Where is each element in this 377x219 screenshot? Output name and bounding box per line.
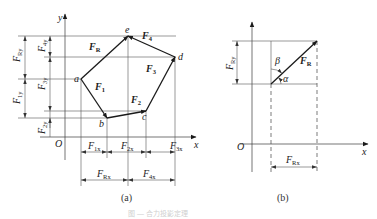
beta-label: β [274, 55, 280, 66]
dim-label-F4x: F4x [142, 168, 156, 180]
label-F1: F1 [94, 81, 105, 93]
b-origin-label: O [237, 141, 244, 152]
label-F4: F4 [141, 30, 153, 42]
dim-label-FRy: FRy [11, 48, 23, 63]
b-label-FR: FR [299, 55, 312, 67]
panel-a: y x O a b c d e FR F1 F2 F3 F4 FRy F1y F… [11, 12, 199, 204]
dim-label-F3x: F3x [169, 140, 183, 152]
b-x-axis-label: x [361, 146, 367, 157]
label-FR: FR [88, 41, 101, 53]
vector-F1 [81, 79, 107, 118]
point-e-label: e [125, 24, 130, 35]
point-c-label: c [142, 111, 147, 122]
beta-arc [271, 69, 282, 74]
point-a-label: a [74, 73, 79, 84]
dim-label-F2x: F2x [120, 140, 134, 152]
force-polygon-figure: y x O a b c d e FR F1 F2 F3 F4 FRy F1y F… [0, 0, 377, 219]
y-axis-label: y [57, 12, 63, 23]
figure-caption: 图 — 合力投影定理 [128, 209, 188, 218]
origin-label: O [55, 138, 62, 149]
vector-F2 [107, 111, 146, 118]
label-F3: F3 [145, 63, 157, 75]
point-b-label: b [99, 118, 104, 129]
panel-b-caption: (b) [277, 192, 289, 204]
panel-a-caption: (a) [121, 192, 132, 204]
point-d-label: d [178, 51, 184, 62]
label-F2: F2 [130, 94, 141, 106]
alpha-label: α [283, 73, 289, 84]
dim-label-F4y: F4y [36, 39, 48, 53]
x-axis-label: x [193, 139, 199, 150]
dim-label-FRx: FRx [96, 168, 111, 180]
dim-label-F1x: F1x [87, 140, 101, 152]
dim-label-F1y: F1y [11, 91, 23, 105]
b-dim-label-FRy: FRy [224, 56, 236, 71]
dim-label-F2y: F2y [36, 121, 48, 135]
b-dim-label-FRx: FRx [285, 154, 300, 166]
alpha-arc [278, 77, 281, 84]
panel-b: α β FR FRy FRx O x (b) [224, 22, 368, 204]
